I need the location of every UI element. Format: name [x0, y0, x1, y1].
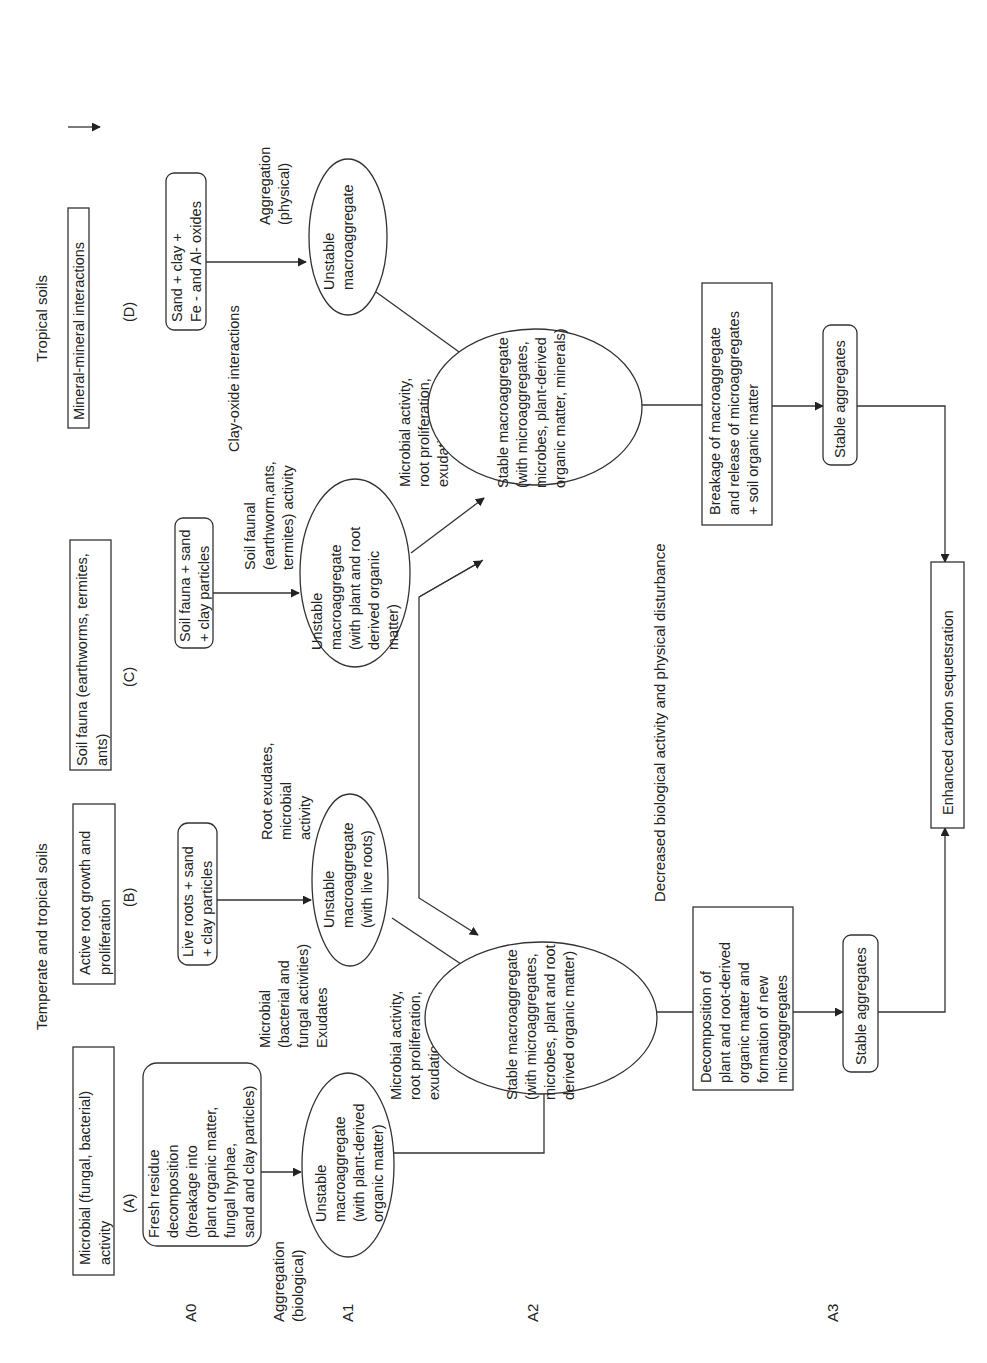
breakage-box: Breakage of macroaggregate and release o…: [702, 283, 772, 525]
agent-label-B-right: Root exudates, microbial activity: [259, 738, 313, 840]
stage-A3: A3: [824, 1304, 841, 1322]
stage-A2: A2: [524, 1304, 541, 1322]
letter-D: (D): [121, 302, 137, 322]
unstable-macroaggregate-D: Unstable macroaggregate: [309, 159, 387, 315]
source-box-C: Soil fauna + sand + clay particles: [175, 518, 213, 648]
disturbance-label: Decreased biological activity and physic…: [651, 543, 668, 902]
title-box-A: Microbial (fungal, bacterial)activity: [73, 1047, 114, 1275]
header-tropical: Tropical soils: [33, 275, 50, 362]
source-box-A: Fresh residue decomposition (breakage in…: [143, 1063, 261, 1246]
svg-text:Stable aggregates: Stable aggregates: [832, 340, 848, 458]
title-box-C: Soil fauna (earthworms, termites,ants): [70, 540, 111, 770]
stable-macroaggregate-CD: Stable macroaggregate (with microaggrega…: [428, 328, 642, 488]
svg-text:Mineral-mineral interactions: Mineral-mineral interactions: [71, 242, 87, 420]
stage-A0: A0: [182, 1304, 199, 1322]
unstable-macroaggregate-B: Unstable macroaggregate (with live roots…: [312, 794, 388, 966]
title-box-B: Active root growth andproliferation: [73, 804, 115, 984]
unstable-macroaggregate-C: Unstable macroaggregate (with plant and …: [300, 479, 410, 667]
interaction-label-D: Clay-oxide interactions: [226, 305, 242, 452]
svg-text:Stable aggregates: Stable aggregates: [853, 947, 869, 1065]
source-box-D: Sand + clay + Fe - and Al- oxides: [166, 173, 206, 330]
letter-A: (A): [121, 1194, 137, 1213]
title-box-D: Mineral-mineral interactions: [68, 208, 89, 428]
agent-label-D: Aggregation (physical): [257, 143, 292, 225]
letter-B: (B): [121, 888, 137, 907]
stable-macroaggregate-AB: Stable macroaggregate (with microaggrega…: [425, 940, 657, 1100]
agent-label-C: Soil faunal (earthworm,ants, termites) a…: [242, 457, 296, 570]
letter-C: (C): [121, 667, 137, 687]
svg-text:Enhanced carbon sequetsration: Enhanced carbon sequetsration: [940, 610, 956, 815]
stable-aggregates-right: Stable aggregates: [823, 325, 857, 465]
stage-aggregation-biological: Aggregation(biological): [270, 1241, 306, 1322]
enhanced-carbon-sequestration-box: Enhanced carbon sequetsration: [931, 562, 964, 828]
unstable-macroaggregate-A: Unstable macroaggregate (with plant-deri…: [302, 1073, 394, 1257]
stable-aggregates-left: Stable aggregates: [843, 935, 878, 1072]
header-temperate: Temperate and tropical soils: [33, 843, 50, 1030]
agent-label-B-left: Microbial (bacterial and fungal activiti…: [257, 940, 330, 1048]
soil-aggregation-diagram: Temperate and tropical soils Tropical so…: [0, 0, 987, 1363]
stage-A1: A1: [339, 1304, 356, 1322]
source-box-B: Live roots + sand + clay particles: [178, 823, 217, 965]
decomposition-box: Decomposition of plant and root-derived …: [693, 907, 793, 1090]
